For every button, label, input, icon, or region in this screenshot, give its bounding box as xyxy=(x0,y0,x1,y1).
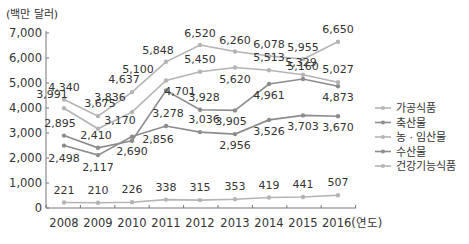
data-point xyxy=(164,124,168,128)
legend-label: 축산물 xyxy=(396,117,426,130)
data-label: 3,928 xyxy=(188,91,220,104)
data-label: 3,991 xyxy=(36,88,68,101)
data-label: 4,961 xyxy=(253,89,285,102)
x-tick-label: 2013 xyxy=(220,216,249,230)
data-point xyxy=(130,200,134,204)
data-label: 226 xyxy=(122,183,143,196)
y-tick-label: 7,000 xyxy=(9,26,42,40)
data-label: 441 xyxy=(293,178,314,191)
data-label: 2,895 xyxy=(44,117,76,130)
data-point xyxy=(62,106,66,110)
data-label: 353 xyxy=(225,180,246,193)
data-point xyxy=(301,77,305,81)
x-tick-label: 2015 xyxy=(288,216,317,230)
data-point xyxy=(198,108,202,112)
data-point xyxy=(301,113,305,117)
data-label: 2,117 xyxy=(82,161,114,174)
x-tick-label: 2016(연도) xyxy=(322,216,382,230)
data-label: 3,170 xyxy=(104,114,136,127)
y-axis: 01,0002,0003,0004,0005,0006,0007,000 xyxy=(9,26,49,215)
legend: 가공식품축산물농 · 임산물수산물건강기능식품 xyxy=(375,102,456,173)
x-axis: 200820092010201120122013201420152016(연도) xyxy=(46,205,382,230)
data-label: 507 xyxy=(328,176,349,189)
data-point xyxy=(301,73,305,77)
legend-item: 농 · 임산물 xyxy=(375,131,447,144)
data-point xyxy=(62,200,66,204)
data-label: 3,905 xyxy=(215,115,247,128)
data-label: 5,620 xyxy=(219,73,251,86)
data-point xyxy=(267,68,271,72)
data-point xyxy=(198,43,202,47)
x-tick-label: 2011 xyxy=(151,216,180,230)
data-point xyxy=(336,40,340,44)
data-point xyxy=(233,197,237,201)
data-label: 3,670 xyxy=(322,121,354,134)
data-label: 6,650 xyxy=(322,23,354,36)
data-point xyxy=(336,114,340,118)
data-label: 6,078 xyxy=(253,38,285,51)
data-label: 338 xyxy=(156,181,177,194)
data-label: 4,873 xyxy=(322,91,354,104)
data-point xyxy=(130,139,134,143)
data-label: 3,836 xyxy=(94,91,126,104)
data-point xyxy=(130,134,134,138)
data-labels: 4,3403,6754,6375,8486,5206,2606,0785,955… xyxy=(36,23,354,197)
data-point xyxy=(336,84,340,88)
data-point xyxy=(62,143,66,147)
data-point xyxy=(164,78,168,82)
x-tick-label: 2012 xyxy=(185,216,214,230)
data-point xyxy=(267,82,271,86)
data-label: 6,260 xyxy=(219,34,251,47)
data-point xyxy=(62,133,66,137)
data-point xyxy=(96,153,100,157)
data-label: 5,848 xyxy=(142,44,174,57)
legend-item: 수산물 xyxy=(375,146,426,159)
data-label: 210 xyxy=(88,184,109,197)
data-point xyxy=(96,201,100,205)
x-tick-label: 2008 xyxy=(49,216,78,230)
legend-label: 건강기능식품 xyxy=(396,160,456,173)
y-tick-label: 2,000 xyxy=(9,151,42,165)
data-point xyxy=(164,60,168,64)
data-point xyxy=(96,114,100,118)
x-tick-label: 2014 xyxy=(254,216,283,230)
data-point xyxy=(233,132,237,136)
legend-label: 가공식품 xyxy=(396,102,436,115)
y-tick-label: 0 xyxy=(35,201,42,215)
data-label: 221 xyxy=(54,184,75,197)
legend-label: 수산물 xyxy=(396,146,426,159)
legend-label: 농 · 임산물 xyxy=(396,131,447,144)
data-point xyxy=(267,118,271,122)
x-tick-label: 2009 xyxy=(83,216,112,230)
data-point xyxy=(233,49,237,53)
data-point xyxy=(233,65,237,69)
x-tick-label: 2010 xyxy=(117,216,146,230)
data-point xyxy=(130,90,134,94)
data-label: 2,856 xyxy=(142,133,174,146)
y-tick-label: 1,000 xyxy=(9,176,42,190)
data-label: 5,955 xyxy=(287,41,319,54)
data-label: 3,526 xyxy=(253,125,285,138)
y-tick-label: 6,000 xyxy=(9,51,42,65)
data-label: 3,036 xyxy=(188,113,220,126)
y-tick-label: 3,000 xyxy=(9,126,42,140)
data-point xyxy=(233,108,237,112)
data-label: 2,956 xyxy=(219,139,251,152)
legend-item: 건강기능식품 xyxy=(375,160,456,173)
y-tick-label: 4,000 xyxy=(9,101,42,115)
data-label: 3,703 xyxy=(287,120,319,133)
data-point xyxy=(96,146,100,150)
data-point xyxy=(198,198,202,202)
data-point xyxy=(267,195,271,199)
data-label: 2,690 xyxy=(116,145,148,158)
data-point xyxy=(198,70,202,74)
data-label: 5,450 xyxy=(184,53,216,66)
data-label: 315 xyxy=(190,181,211,194)
data-label: 5,027 xyxy=(322,63,354,76)
data-point xyxy=(198,130,202,134)
data-label: 3,278 xyxy=(152,107,184,120)
data-label: 419 xyxy=(259,179,280,192)
legend-item: 가공식품 xyxy=(375,102,436,115)
data-point xyxy=(336,193,340,197)
data-label: 6,520 xyxy=(184,27,216,40)
